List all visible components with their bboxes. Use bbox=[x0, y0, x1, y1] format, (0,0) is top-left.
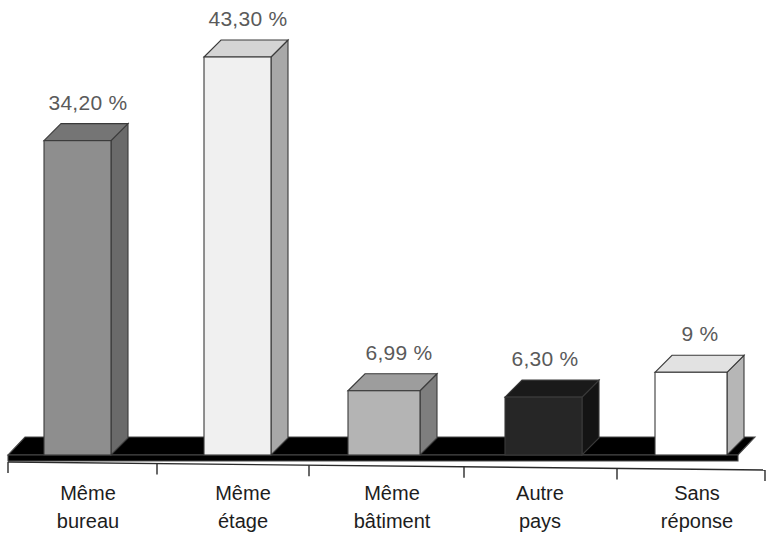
bar-front-face bbox=[204, 57, 271, 455]
chart-canvas: 34,20 %43,30 %6,99 %6,30 %9 % Mêmebureau… bbox=[0, 0, 769, 541]
category-label-3-line1: Même bbox=[364, 482, 420, 504]
value-labels-group: 34,20 %43,30 %6,99 %6,30 %9 % bbox=[48, 7, 718, 370]
floor-front-face bbox=[8, 455, 738, 461]
bar-2 bbox=[204, 40, 288, 455]
value-label-1: 34,20 % bbox=[48, 91, 127, 114]
bar-front-face bbox=[44, 141, 111, 455]
value-label-3: 6,99 % bbox=[365, 341, 432, 364]
bar-3 bbox=[348, 374, 437, 455]
category-label-1-line2: bureau bbox=[57, 510, 119, 532]
bar-5 bbox=[655, 355, 744, 455]
category-label-4-line1: Autre bbox=[516, 482, 564, 504]
bar-front-face bbox=[505, 397, 582, 455]
bar-front-face bbox=[655, 372, 727, 455]
category-label-5-line1: Sans bbox=[674, 482, 720, 504]
bar-4 bbox=[505, 380, 599, 455]
category-label-5-line2: réponse bbox=[661, 510, 733, 532]
category-label-2-line2: étage bbox=[218, 510, 268, 532]
category-label-2-line1: Même bbox=[215, 482, 271, 504]
category-label-4-line2: pays bbox=[519, 510, 561, 532]
value-label-5: 9 % bbox=[681, 322, 718, 345]
x-axis bbox=[8, 462, 765, 481]
bar-side-face bbox=[111, 124, 128, 455]
category-label-3-line2: bâtiment bbox=[354, 510, 431, 532]
axis-ticks bbox=[8, 462, 765, 481]
category-label-1-line1: Même bbox=[60, 482, 116, 504]
value-label-4: 6,30 % bbox=[511, 347, 578, 370]
bar-chart: 34,20 %43,30 %6,99 %6,30 %9 % Mêmebureau… bbox=[0, 0, 769, 541]
bar-side-face bbox=[271, 40, 288, 455]
category-labels-group: MêmebureauMêmeétageMêmebâtimentAutrepays… bbox=[57, 482, 733, 532]
axis-baseline bbox=[8, 462, 765, 470]
value-label-2: 43,30 % bbox=[208, 7, 287, 30]
bars-group bbox=[44, 40, 744, 455]
bar-front-face bbox=[348, 391, 420, 455]
bar-1 bbox=[44, 124, 128, 455]
bar-top-face bbox=[505, 380, 599, 397]
